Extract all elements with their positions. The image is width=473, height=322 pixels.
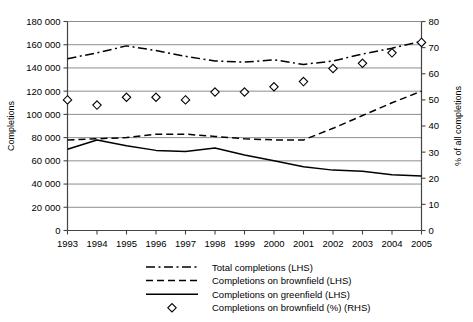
- chart-legend: Total completions (LHS)Completions on br…: [146, 262, 370, 314]
- tick-label-right: 0: [429, 225, 434, 236]
- tick-label-right: 20: [429, 173, 440, 184]
- series-marker-diamond: [152, 93, 160, 101]
- tick-label-right: 10: [429, 199, 440, 210]
- data-series: [63, 38, 425, 176]
- series-marker-diamond: [211, 88, 219, 96]
- tick-label-left: 40 000: [31, 178, 60, 189]
- tick-label-year: 2003: [352, 238, 373, 249]
- tick-label-right: 60: [429, 68, 440, 79]
- series-line-1: [68, 91, 422, 140]
- tick-label-year: 1993: [57, 238, 78, 249]
- series-marker-diamond: [388, 49, 396, 57]
- tick-label-year: 2002: [322, 238, 343, 249]
- tick-label-left: 120 000: [26, 86, 60, 97]
- tick-label-year: 1994: [86, 238, 107, 249]
- tick-label-year: 2001: [293, 238, 314, 249]
- axis-titles: Completions% of all completions: [6, 85, 463, 166]
- gridlines: [68, 22, 422, 231]
- series-marker-diamond: [417, 38, 425, 46]
- tick-label-right: 50: [429, 94, 440, 105]
- y-axis-title: Completions: [6, 100, 16, 151]
- completions-line-chart: 020 00040 00060 00080 000100 000120 0001…: [0, 0, 473, 322]
- series-marker-diamond: [329, 64, 337, 72]
- tick-label-right: 80: [429, 16, 440, 27]
- tick-label-left: 0: [55, 225, 60, 236]
- series-marker-diamond: [93, 101, 101, 109]
- y2-axis-title: % of all completions: [453, 85, 463, 166]
- tick-label-left: 140 000: [26, 62, 60, 73]
- series-line-2: [68, 140, 422, 176]
- tick-label-left: 60 000: [31, 155, 60, 166]
- legend-label-0: Total completions (LHS): [212, 262, 313, 273]
- tick-label-left: 80 000: [31, 132, 60, 143]
- tick-label-year: 1999: [234, 238, 255, 249]
- tick-label-year: 2000: [263, 238, 284, 249]
- series-marker-diamond: [63, 96, 71, 104]
- tick-label-left: 160 000: [26, 39, 60, 50]
- series-marker-diamond: [299, 77, 307, 85]
- tick-label-right: 30: [429, 147, 440, 158]
- series-marker-diamond: [358, 59, 366, 67]
- series-marker-diamond: [240, 88, 248, 96]
- legend-marker-diamond: [168, 304, 176, 312]
- chart-container: 020 00040 00060 00080 000100 000120 0001…: [0, 0, 473, 322]
- tick-label-left: 180 000: [26, 16, 60, 27]
- tick-label-year: 1997: [175, 238, 196, 249]
- series-marker-diamond: [270, 83, 278, 91]
- tick-label-year: 2004: [381, 238, 402, 249]
- tick-label-year: 1996: [145, 238, 166, 249]
- tick-label-left: 100 000: [26, 109, 60, 120]
- tick-label-year: 2005: [411, 238, 432, 249]
- legend-label-3: Completions on brownfield (%) (RHS): [212, 302, 370, 313]
- tick-label-year: 1995: [116, 238, 137, 249]
- tick-label-left: 20 000: [31, 202, 60, 213]
- axes: [64, 22, 426, 235]
- tick-label-year: 1998: [204, 238, 225, 249]
- legend-label-1: Completions on brownfield (LHS): [212, 275, 351, 286]
- series-marker-diamond: [181, 96, 189, 104]
- series-marker-diamond: [122, 93, 130, 101]
- legend-label-2: Completions on greenfield (LHS): [212, 289, 350, 300]
- tick-label-right: 70: [429, 42, 440, 53]
- tick-label-right: 40: [429, 120, 440, 131]
